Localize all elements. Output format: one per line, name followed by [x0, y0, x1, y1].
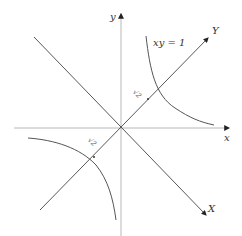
y-axis-label: y — [110, 12, 116, 22]
diagram-canvas: y x Y X xy = 1 √2 √2 — [0, 0, 242, 236]
Y-axis-rotated — [40, 38, 208, 210]
diagram-svg — [0, 0, 242, 236]
hyperbola-upper-branch — [146, 36, 214, 125]
x-axis-label: x — [224, 133, 230, 143]
curve-equation-label: xy = 1 — [153, 38, 185, 48]
X-axis-label: X — [208, 204, 215, 214]
X-axis-rotated — [34, 37, 206, 215]
vertex-point-lower — [93, 156, 95, 158]
Y-axis-label: Y — [212, 26, 219, 36]
hyperbola-lower-branch — [28, 138, 116, 220]
vertex-point-upper — [147, 98, 149, 100]
